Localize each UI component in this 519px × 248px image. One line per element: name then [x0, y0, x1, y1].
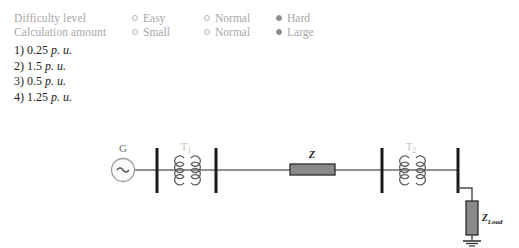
radio-hard-icon[interactable] [276, 15, 282, 21]
answer-unit: p. u. [51, 90, 72, 104]
answer-unit: p. u. [45, 74, 66, 88]
generator-symbol [112, 159, 135, 182]
transformer-t2-primary-coil [400, 156, 409, 185]
calculation-amount-label: Calculation amount [14, 26, 132, 38]
radio-large-icon[interactable] [276, 29, 282, 35]
difficulty-level-row: Difficulty level Easy Normal Hard [14, 11, 354, 24]
transformer-t2-label: T2 [406, 140, 417, 155]
generator-ac-tilde-icon [117, 168, 129, 172]
transformer-t1-primary-coil [175, 156, 184, 185]
answer-number: 3) [14, 74, 24, 88]
answer-value: 1.5 [27, 59, 42, 73]
transformer-t1: T1 [175, 140, 201, 185]
radio-small-icon[interactable] [132, 29, 138, 35]
transformer-t1-label: T1 [181, 140, 192, 155]
answer-number: 2) [14, 59, 24, 73]
difficulty-option-easy-label: Easy [143, 12, 165, 24]
transformer-t2-secondary-coil [416, 156, 425, 185]
transformer-t2: T2 [400, 140, 426, 185]
answer-options-list: 1) 0.25 p. u. 2) 1.5 p. u. 3) 0.5 p. u. … [14, 43, 72, 105]
difficulty-level-label: Difficulty level [14, 12, 132, 24]
calculation-option-normal-label: Normal [215, 26, 250, 38]
answer-number: 4) [14, 90, 24, 104]
transformer-t1-secondary-coil [191, 156, 200, 185]
line-impedance-z: Z [290, 149, 335, 175]
list-item[interactable]: 1) 0.25 p. u. [14, 43, 72, 59]
answer-unit: p. u. [45, 59, 66, 73]
radio-calculation-normal-icon[interactable] [204, 29, 210, 35]
list-item[interactable]: 2) 1.5 p. u. [14, 59, 72, 75]
difficulty-option-hard-label: Hard [287, 12, 310, 24]
calculation-option-large[interactable]: Large [276, 26, 348, 38]
radio-easy-icon[interactable] [132, 15, 138, 21]
calculation-option-large-label: Large [287, 26, 314, 38]
list-item[interactable]: 4) 1.25 p. u. [14, 90, 72, 106]
calculation-option-small-label: Small [143, 26, 170, 38]
load-feeder-wire [458, 188, 472, 201]
difficulty-option-easy[interactable]: Easy [132, 12, 204, 24]
calculation-option-small[interactable]: Small [132, 26, 204, 38]
difficulty-option-normal[interactable]: Normal [204, 12, 276, 24]
calculation-option-normal[interactable]: Normal [204, 26, 276, 38]
radio-difficulty-normal-icon[interactable] [204, 15, 210, 21]
answer-value: 0.25 [27, 43, 48, 57]
answer-unit: p. u. [51, 43, 72, 57]
answer-number: 1) [14, 43, 24, 57]
question-meta-panel: Difficulty level Easy Normal Hard Calcul… [14, 11, 354, 39]
line-impedance-box [290, 164, 335, 175]
list-item[interactable]: 3) 0.5 p. u. [14, 74, 72, 90]
ground-symbol-icon [463, 241, 481, 246]
answer-value: 1.25 [27, 90, 48, 104]
line-impedance-label: Z [308, 149, 316, 160]
load-impedance-z-load: ZLoad [466, 201, 503, 235]
difficulty-option-hard[interactable]: Hard [276, 12, 348, 24]
calculation-amount-row: Calculation amount Small Normal Large [14, 25, 354, 38]
generator-label: G [119, 142, 127, 154]
answer-value: 0.5 [27, 74, 42, 88]
load-impedance-label: ZLoad [481, 213, 503, 226]
difficulty-option-normal-label: Normal [215, 12, 250, 24]
load-impedance-box [466, 201, 478, 235]
